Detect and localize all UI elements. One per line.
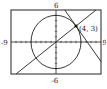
graph: (4, 3) 6 -6 -9 9	[0, 0, 106, 89]
tangent-point	[74, 24, 77, 27]
y-max-label: 6	[54, 2, 59, 10]
x-max-label: 9	[103, 39, 107, 47]
y-min-label: -6	[52, 77, 59, 85]
point-label: (4, 3)	[79, 25, 98, 33]
tangent-line	[65, 10, 101, 62]
x-min-label: -9	[1, 39, 8, 47]
